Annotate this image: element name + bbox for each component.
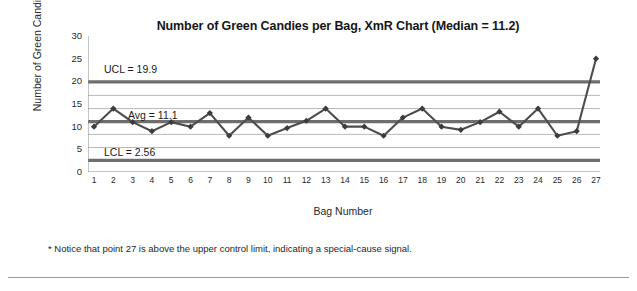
footnote-text: * Notice that point 27 is above the uppe… (48, 243, 412, 254)
x-tick-label: 12 (298, 175, 314, 185)
chart-canvas (88, 36, 600, 172)
x-tick-label: 21 (472, 175, 488, 185)
data-point-marker (593, 56, 599, 62)
x-tick-label: 15 (356, 175, 372, 185)
x-tick-label: 24 (530, 175, 546, 185)
x-tick-label: 19 (434, 175, 450, 185)
y-tick-label: 20 (56, 75, 82, 86)
x-tick-label: 27 (588, 175, 604, 185)
y-axis-label: Number of Green Candies (31, 0, 43, 123)
x-tick-label: 25 (549, 175, 565, 185)
lcl-annotation: LCL = 2.56 (104, 146, 155, 158)
x-tick-label: 18 (414, 175, 430, 185)
plot-area (88, 36, 600, 172)
x-tick-label: 4 (144, 175, 160, 185)
y-tick-label: 30 (56, 30, 82, 41)
data-point-marker (458, 127, 464, 133)
x-tick-label: 9 (240, 175, 256, 185)
x-tick-label: 13 (318, 175, 334, 185)
chart-title: Number of Green Candies per Bag, XmR Cha… (88, 19, 588, 33)
y-tick-label: 5 (56, 143, 82, 154)
y-tick-label: 10 (56, 121, 82, 132)
x-tick-label: 26 (569, 175, 585, 185)
x-tick-label: 23 (511, 175, 527, 185)
x-tick-label: 8 (221, 175, 237, 185)
x-tick-label: 20 (453, 175, 469, 185)
y-tick-label: 15 (56, 98, 82, 109)
data-point-marker (574, 128, 580, 134)
x-tick-label: 2 (105, 175, 121, 185)
y-tick-label: 25 (56, 53, 82, 64)
x-tick-label: 22 (491, 175, 507, 185)
x-tick-label: 16 (376, 175, 392, 185)
y-tick-label: 0 (56, 166, 82, 177)
x-tick-label: 10 (260, 175, 276, 185)
data-point-marker (284, 125, 290, 131)
avg-annotation: Avg = 11.1 (128, 109, 178, 121)
x-tick-label: 5 (163, 175, 179, 185)
x-tick-label: 1 (86, 175, 102, 185)
x-axis-label: Bag Number (88, 205, 598, 217)
x-tick-label: 6 (183, 175, 199, 185)
x-tick-label: 3 (125, 175, 141, 185)
ucl-annotation: UCL = 19.9 (104, 63, 157, 75)
x-tick-label: 17 (395, 175, 411, 185)
x-tick-label: 14 (337, 175, 353, 185)
xmr-chart-figure: Number of Green Candies per Bag, XmR Cha… (0, 0, 637, 291)
x-tick-label: 11 (279, 175, 295, 185)
bottom-divider (8, 277, 629, 278)
x-tick-label: 7 (202, 175, 218, 185)
